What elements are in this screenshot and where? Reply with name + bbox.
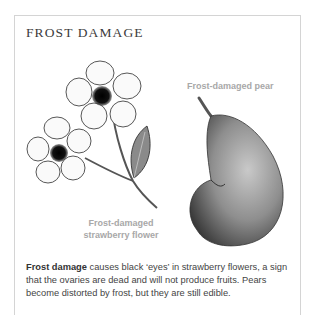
- caption: Frost damage causes black ‘eyes’ in stra…: [26, 261, 296, 301]
- strawberry-flower-icon: [27, 61, 157, 208]
- pear-label: Frost-damaged pear: [187, 80, 274, 92]
- frost-damage-panel: FROST DAMAGE: [14, 15, 301, 315]
- flower-label-line2: strawberry flower: [81, 229, 161, 241]
- caption-bold: Frost damage: [26, 262, 87, 272]
- flower-label-line1: Frost-damaged: [81, 217, 161, 229]
- flower-label: Frost-damaged strawberry flower: [81, 217, 161, 241]
- pear-icon: [190, 98, 283, 246]
